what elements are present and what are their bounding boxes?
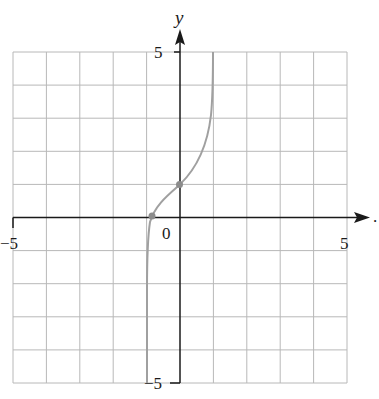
point-neg1-0 xyxy=(149,213,156,220)
y-tick-top: 5 xyxy=(154,44,163,61)
x-tick-left: −5 xyxy=(0,235,18,252)
y-tick-bottom: −5 xyxy=(144,375,162,392)
axes xyxy=(13,40,358,383)
point-0-1 xyxy=(176,181,183,188)
x-axis-label: . xyxy=(373,208,377,225)
coordinate-plane xyxy=(0,0,379,399)
origin-label: 0 xyxy=(162,225,171,242)
y-axis-label: y xyxy=(175,8,183,27)
x-tick-right: 5 xyxy=(340,235,349,252)
